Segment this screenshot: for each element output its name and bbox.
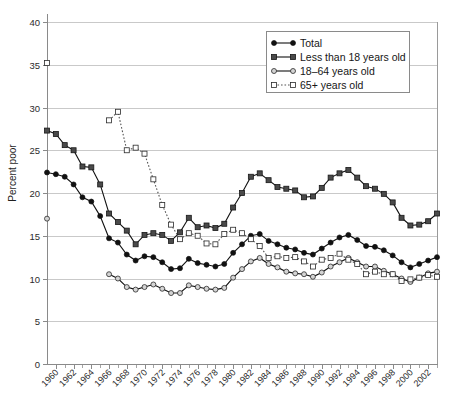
x-tick-label-1998: 1998 (376, 367, 397, 388)
data-point (151, 282, 156, 287)
x-tick-label-1966: 1966 (92, 367, 113, 388)
data-point (435, 211, 440, 216)
data-point (80, 195, 85, 200)
data-point (355, 175, 360, 180)
data-point (319, 185, 324, 190)
data-point (399, 215, 404, 220)
y-tick-label-40: 40 (29, 17, 40, 28)
data-point (408, 223, 413, 228)
series-line-1-1 (47, 172, 437, 269)
data-point (222, 285, 227, 290)
data-point (124, 285, 129, 290)
data-point (346, 167, 351, 172)
data-point (107, 236, 112, 241)
data-point (310, 274, 315, 279)
legend-marker-left-1 (272, 41, 277, 46)
data-point (160, 232, 165, 237)
data-point (124, 228, 129, 233)
data-point (195, 233, 200, 238)
data-point (319, 257, 324, 262)
data-point (284, 255, 289, 260)
data-point (337, 251, 342, 256)
data-point (71, 148, 76, 153)
data-point (186, 283, 191, 288)
series-1 (45, 170, 440, 272)
data-point (275, 265, 280, 270)
data-point (293, 247, 298, 252)
data-point (107, 211, 112, 216)
data-point (310, 264, 315, 269)
data-point (160, 286, 165, 291)
data-point (372, 244, 377, 249)
data-point (213, 226, 218, 231)
data-point (346, 232, 351, 237)
y-tick-label-10: 10 (29, 274, 40, 285)
data-point (62, 174, 67, 179)
data-point (390, 200, 395, 205)
legend-label-4: 65+ years old (300, 79, 363, 91)
series-line-3-2 (109, 258, 437, 293)
data-point (186, 256, 191, 261)
x-tick-label-1970: 1970 (128, 367, 149, 388)
data-point (133, 258, 138, 263)
data-point (337, 260, 342, 265)
legend-marker-left-3 (272, 69, 277, 74)
data-point (124, 148, 129, 153)
data-point (195, 225, 200, 230)
legend-label-1: Total (300, 37, 322, 49)
series-line-2-1 (47, 131, 437, 245)
series-2 (45, 128, 440, 247)
data-point (231, 205, 236, 210)
x-tick-label-1978: 1978 (199, 367, 220, 388)
data-point (107, 118, 112, 123)
data-point (381, 272, 386, 277)
data-point (169, 222, 174, 227)
x-tick-label-1996: 1996 (358, 367, 379, 388)
data-point (284, 269, 289, 274)
data-point (151, 255, 156, 260)
data-point (248, 259, 253, 264)
data-point (319, 270, 324, 275)
y-tick-label-5: 5 (35, 316, 40, 327)
data-point (372, 186, 377, 191)
data-point (240, 231, 245, 236)
data-point (71, 182, 76, 187)
data-point (151, 231, 156, 236)
data-point (390, 272, 395, 277)
data-point (364, 244, 369, 249)
data-point (328, 175, 333, 180)
data-point (381, 248, 386, 253)
x-tick-label-1974: 1974 (163, 367, 184, 388)
x-tick-label-1962: 1962 (57, 367, 78, 388)
data-point (124, 252, 129, 257)
data-point (328, 255, 333, 260)
data-point (98, 214, 103, 219)
legend-label-2: Less than 18 years old (300, 51, 406, 63)
data-point (107, 272, 112, 277)
data-point (98, 182, 103, 187)
data-point (435, 274, 440, 279)
data-point (435, 269, 440, 274)
y-tick-label-20: 20 (29, 188, 40, 199)
x-tick-label-1986: 1986 (270, 367, 291, 388)
data-point (80, 164, 85, 169)
legend-marker-right-3 (291, 69, 296, 74)
y-tick-label-15: 15 (29, 231, 40, 242)
data-point (248, 237, 253, 242)
data-point (213, 264, 218, 269)
data-point (240, 191, 245, 196)
poverty-rate-line-chart: 0510152025303540Percent poor196019621964… (0, 0, 456, 410)
y-tick-label-30: 30 (29, 103, 40, 114)
data-point (275, 254, 280, 259)
legend-marker-left-4 (272, 83, 277, 88)
y-axis-title: Percent poor (7, 144, 18, 202)
data-point (266, 261, 271, 266)
data-point (169, 291, 174, 296)
data-point (293, 271, 298, 276)
data-point (257, 232, 262, 237)
data-point (372, 264, 377, 269)
data-point (186, 231, 191, 236)
data-point (169, 238, 174, 243)
data-point (142, 232, 147, 237)
data-point (364, 264, 369, 269)
